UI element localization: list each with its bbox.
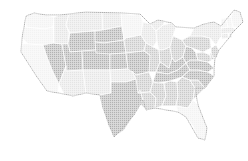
state-idaho[interactable] <box>54 14 69 44</box>
state-new-mexico[interactable] <box>83 70 111 95</box>
state-new-jersey[interactable] <box>211 45 219 58</box>
state-maine[interactable] <box>231 10 243 27</box>
state-virginia[interactable] <box>186 60 214 72</box>
state-wyoming[interactable] <box>68 31 96 52</box>
state-kansas[interactable] <box>110 53 128 70</box>
state-montana[interactable] <box>66 12 103 33</box>
us-map-svg <box>0 0 248 161</box>
choropleth-map-figure <box>0 0 248 161</box>
state-oregon[interactable] <box>22 27 54 45</box>
state-massachusetts[interactable] <box>221 27 236 34</box>
